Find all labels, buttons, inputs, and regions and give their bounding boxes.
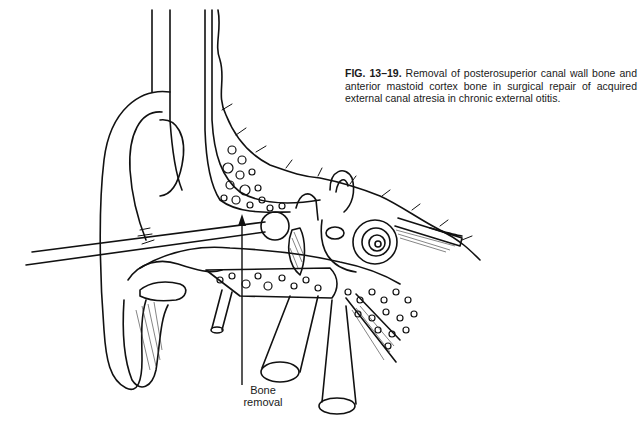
figure-number: FIG. 13–19.	[345, 67, 402, 79]
canal-floor-bone	[206, 268, 337, 298]
burr-tip	[261, 212, 289, 240]
arrow-head-icon	[238, 214, 246, 226]
bone-removal-label: Bone removal	[218, 384, 308, 408]
mastoid-air-cells	[217, 146, 417, 349]
bone-removal-label-line2: removal	[218, 396, 308, 408]
bone-removal-label-line1: Bone	[218, 384, 308, 396]
ear-anatomy-figure	[0, 0, 641, 434]
ear-cross-section-illustration	[0, 0, 641, 434]
jugular-vessel	[262, 296, 318, 372]
figure-caption: FIG. 13–19. Removal of posterosuperior c…	[345, 67, 637, 105]
